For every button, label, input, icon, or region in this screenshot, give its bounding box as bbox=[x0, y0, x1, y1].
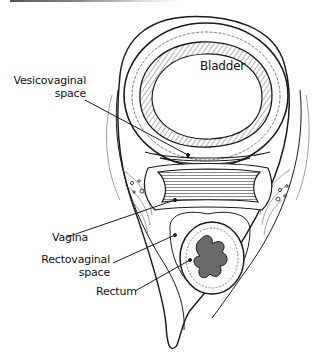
vagina bbox=[144, 164, 271, 211]
label-rectovaginal-space: Rectovaginal space bbox=[36, 253, 110, 279]
label-vesicovaginal-line1: Vesicovaginal bbox=[12, 74, 86, 87]
label-rectovaginal-line1: Rectovaginal bbox=[36, 253, 110, 266]
label-vesicovaginal-line2: space bbox=[12, 87, 86, 100]
label-vagina: Vagina bbox=[52, 231, 88, 244]
bladder bbox=[124, 23, 288, 167]
label-rectovaginal-line2: space bbox=[36, 266, 110, 279]
rectum bbox=[180, 222, 244, 294]
label-bladder: Bladder bbox=[200, 60, 245, 73]
pelvis-cross-section-drawing bbox=[0, 0, 330, 360]
label-rectum: Rectum bbox=[96, 285, 137, 298]
label-vesicovaginal-space: Vesicovaginal space bbox=[12, 74, 86, 100]
